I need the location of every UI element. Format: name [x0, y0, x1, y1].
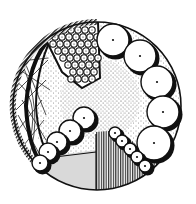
honeycomb-cell: [66, 34, 72, 40]
circular-diagram: [0, 0, 196, 204]
honeycomb-cell: [90, 48, 96, 54]
center-dot: [129, 148, 131, 150]
honeycomb-cell: [71, 41, 77, 47]
honeycomb-cell: [74, 55, 80, 61]
center-dot: [162, 111, 164, 113]
honeycomb-cell: [93, 62, 99, 68]
center-dot: [56, 141, 58, 143]
honeycomb-cell: [64, 41, 70, 47]
honeycomb-cell: [78, 41, 84, 47]
center-dot: [139, 55, 141, 57]
center-dot: [47, 151, 49, 153]
honeycomb-cell: [79, 62, 85, 68]
honeycomb-cell: [73, 34, 79, 40]
honeycomb-cell: [89, 27, 95, 33]
honeycomb-cell: [67, 55, 73, 61]
center-dot: [144, 165, 146, 167]
honeycomb-cell: [62, 48, 68, 54]
honeycomb-cell: [95, 55, 101, 61]
honeycomb-cell: [82, 27, 88, 33]
honeycomb-cell: [65, 62, 71, 68]
honeycomb-cell: [82, 76, 88, 82]
center-dot: [83, 117, 85, 119]
honeycomb-cell: [60, 55, 66, 61]
honeycomb-cell: [50, 41, 56, 47]
center-dot: [121, 140, 123, 142]
honeycomb-cell: [89, 76, 95, 82]
honeycomb-cell: [75, 27, 81, 33]
center-dot: [39, 162, 41, 164]
center-dot: [153, 142, 155, 144]
honeycomb-cell: [85, 41, 91, 47]
honeycomb-cell: [72, 62, 78, 68]
honeycomb-cell: [68, 76, 74, 82]
honeycomb-cell: [88, 55, 94, 61]
illustration: Circular pen-and-ink illustration of a c…: [0, 0, 196, 204]
center-dot: [112, 39, 114, 41]
center-dot: [114, 132, 116, 134]
honeycomb-cell: [86, 62, 92, 68]
honeycomb-cell: [76, 48, 82, 54]
honeycomb-cell: [75, 76, 81, 82]
center-dot: [69, 130, 71, 132]
honeycomb-cell: [69, 48, 75, 54]
honeycomb-cell: [57, 41, 63, 47]
honeycomb-cell: [80, 34, 86, 40]
honeycomb-cell: [87, 34, 93, 40]
honeycomb-cell: [70, 69, 76, 75]
center-dot: [156, 81, 158, 83]
honeycomb-cell: [55, 48, 61, 54]
honeycomb-cell: [91, 69, 97, 75]
honeycomb-cell: [77, 69, 83, 75]
honeycomb-cell: [83, 48, 89, 54]
honeycomb-cell: [59, 34, 65, 40]
honeycomb-cell: [84, 69, 90, 75]
honeycomb-cell: [81, 55, 87, 61]
center-dot: [136, 156, 138, 158]
